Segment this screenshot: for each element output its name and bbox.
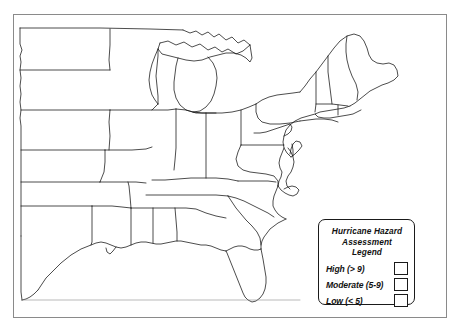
legend-title-line1: Hurricane Hazard bbox=[326, 226, 408, 237]
legend-title-line2: Assessment Legend bbox=[326, 237, 408, 258]
legend-label-moderate: Moderate (5-9) bbox=[326, 280, 383, 290]
legend-row-high: High (> 9) bbox=[326, 261, 408, 277]
legend-title: Hurricane Hazard Assessment Legend bbox=[326, 225, 408, 261]
legend-row-moderate: Moderate (5-9) bbox=[326, 277, 408, 293]
legend-swatch-moderate bbox=[394, 278, 408, 291]
legend-label-low: Low (< 5) bbox=[326, 296, 363, 306]
legend-swatch-low bbox=[394, 294, 408, 307]
legend-swatch-high bbox=[394, 262, 408, 275]
legend-label-high: High (> 9) bbox=[326, 264, 364, 274]
legend-row-low: Low (< 5) bbox=[326, 293, 408, 309]
hurricane-hazard-legend: Hurricane Hazard Assessment Legend High … bbox=[318, 219, 415, 305]
map-canvas: Hurricane Hazard Assessment Legend High … bbox=[0, 0, 461, 333]
